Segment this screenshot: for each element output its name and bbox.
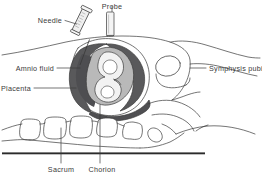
table-baseline <box>2 152 205 154</box>
label-symphysis-pubis: Symphysis pubis <box>209 64 262 73</box>
label-chorion: Chorion <box>89 165 116 174</box>
diagram-canvas: Needle Probe Amnio fluid Placenta Symphy… <box>0 0 262 180</box>
label-sacrum: Sacrum <box>48 165 74 174</box>
ultrasound-probe <box>107 12 115 36</box>
amniocentesis-diagram: Needle Probe Amnio fluid Placenta Symphy… <box>0 0 262 180</box>
label-needle: Needle <box>38 16 62 25</box>
label-placenta: Placenta <box>1 84 31 93</box>
label-amnio-fluid: Amnio fluid <box>16 64 54 73</box>
label-probe: Probe <box>102 2 122 11</box>
